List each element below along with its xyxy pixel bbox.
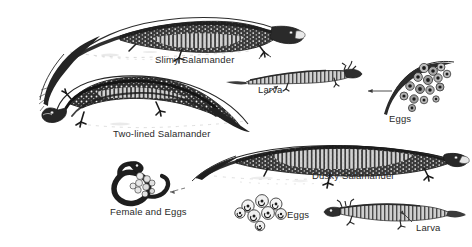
label-larva-bottom: Larva	[416, 222, 441, 233]
label-eggs-bottom: Eggs	[287, 209, 309, 220]
ground-shading-2	[80, 121, 245, 128]
figure-two-lined-salamander	[42, 76, 250, 132]
label-dusky-salamander: Dusky Salamander	[312, 170, 395, 181]
illustration-plate: Slimy Salamander Larva Eggs Two-lined Sa…	[0, 0, 472, 247]
female-egg-mass	[130, 173, 155, 198]
dusky-eye	[455, 156, 458, 159]
larva-bottom-eye	[330, 209, 332, 211]
eggs-top-cluster	[400, 63, 451, 112]
label-two-lined-salamander: Two-lined Salamander	[113, 128, 211, 139]
leader-female-eggs	[170, 188, 185, 194]
label-eggs-top: Eggs	[389, 113, 411, 124]
larva-top-tail-fin	[226, 81, 247, 84]
figure-eggs-bottom	[235, 195, 287, 231]
larva-top-gills	[342, 61, 356, 70]
label-larva-top: Larva	[258, 84, 283, 95]
two-lined-tail	[208, 108, 250, 132]
larva-bottom-tail-fin	[446, 211, 466, 218]
leader-eggs-top	[368, 89, 392, 93]
figure-larva-top	[226, 61, 362, 95]
figure-larva-bottom	[324, 199, 466, 229]
label-slimy-salamander: Slimy Salamander	[155, 54, 235, 65]
eye	[290, 31, 293, 34]
snout	[295, 31, 305, 39]
female-eye	[136, 164, 138, 166]
two-lined-trunk	[70, 77, 240, 126]
label-female-and-eggs: Female and Eggs	[110, 206, 187, 217]
larva-bottom-head	[324, 207, 340, 216]
figure-eggs-top	[368, 61, 454, 115]
larva-top-head	[344, 69, 362, 78]
dusky-tail	[196, 157, 238, 180]
two-lined-eye	[50, 111, 53, 114]
figure-dusky-salamander	[192, 146, 469, 188]
two-lined-head	[42, 108, 67, 123]
figure-female-and-eggs	[114, 162, 185, 204]
